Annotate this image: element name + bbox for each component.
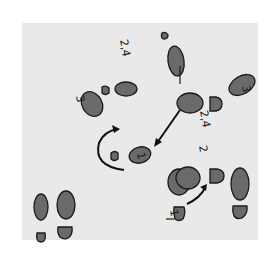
footprint-bottom-left-pair bbox=[34, 191, 75, 242]
curved-arrow-left bbox=[98, 125, 124, 170]
footprint-top-center bbox=[161, 32, 186, 84]
footprint-top-right bbox=[225, 70, 258, 100]
label-top-right: 3 bbox=[239, 84, 253, 93]
label-center-right: 2,4 bbox=[197, 109, 213, 128]
label-top-left: 2,4 bbox=[117, 38, 133, 57]
footprint-center-right bbox=[177, 93, 222, 113]
label-right: 2 bbox=[196, 144, 210, 153]
footprint-diagram: 2,4 3 2,4 3 2 1 1 bbox=[0, 0, 272, 254]
arrow-down-left bbox=[154, 110, 180, 147]
